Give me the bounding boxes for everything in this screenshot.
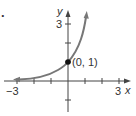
y-axis-arrow-icon	[66, 10, 71, 17]
curve-exponential	[19, 17, 86, 79]
curve-arrow-up-icon	[84, 11, 89, 19]
point-label: (0, 1)	[72, 57, 98, 68]
bullet-mark: .	[1, 6, 5, 19]
x-axis-label: x	[125, 85, 131, 96]
y-axis-label: y	[57, 6, 63, 17]
graph-canvas	[0, 0, 136, 116]
point-0-1	[65, 59, 71, 65]
y-tick-label-3: 3	[56, 19, 62, 30]
x-tick-label-3: 3	[115, 86, 121, 97]
x-axis-arrow-icon	[124, 79, 131, 84]
x-tick-label-neg3: −3	[6, 86, 19, 97]
